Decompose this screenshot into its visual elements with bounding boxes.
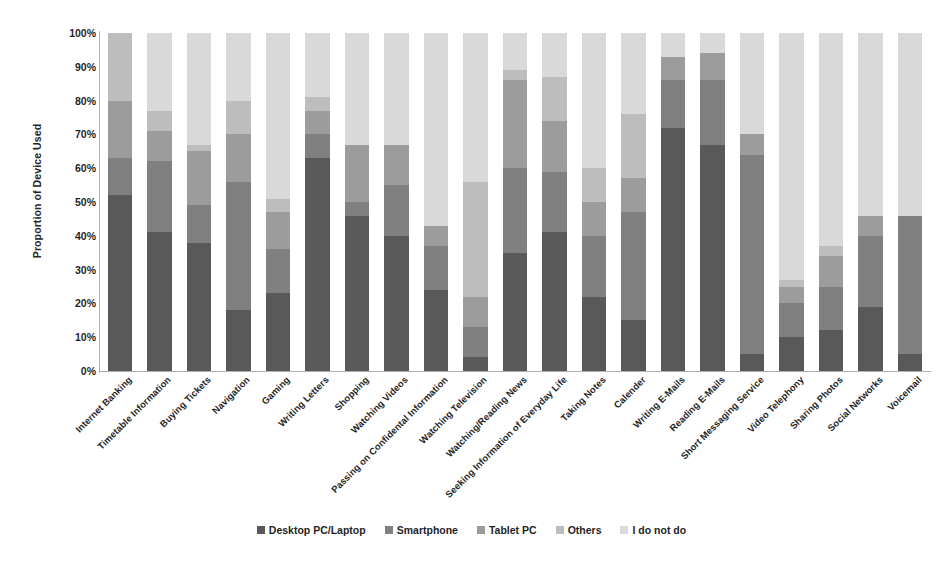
bar-stack	[740, 33, 765, 371]
bar-column[interactable]	[147, 33, 172, 371]
bar-column[interactable]	[661, 33, 686, 371]
bar-segment	[621, 212, 646, 320]
bar-segment	[779, 33, 804, 280]
bar-segment	[147, 161, 172, 232]
legend-label: I do not do	[632, 524, 686, 536]
y-axis-tick: 30%	[58, 264, 96, 276]
bar-segment	[819, 33, 844, 246]
bar-segment	[779, 303, 804, 337]
bar-segment	[463, 357, 488, 371]
bar-segment	[779, 280, 804, 287]
bar-segment	[621, 114, 646, 178]
bar-segment	[661, 33, 686, 57]
bar-stack	[858, 33, 883, 371]
bar-segment	[621, 320, 646, 371]
bar-segment	[858, 33, 883, 216]
bar-segment	[266, 293, 291, 371]
bar-stack	[582, 33, 607, 371]
bar-column[interactable]	[898, 33, 923, 371]
bar-segment	[661, 80, 686, 127]
bar-segment	[858, 307, 883, 371]
bar-segment	[384, 145, 409, 186]
bar-stack	[779, 33, 804, 371]
bar-column[interactable]	[621, 33, 646, 371]
bar-column[interactable]	[266, 33, 291, 371]
bar-stack	[226, 33, 251, 371]
bar-segment	[305, 134, 330, 158]
bar-segment	[345, 33, 370, 145]
bar-segment	[819, 287, 844, 331]
bar-column[interactable]	[108, 33, 133, 371]
bar-segment	[147, 33, 172, 111]
bar-segment	[542, 121, 567, 172]
bar-segment	[424, 33, 449, 226]
bar-column[interactable]	[187, 33, 212, 371]
bar-column[interactable]	[305, 33, 330, 371]
y-axis-tick: 0%	[58, 365, 96, 377]
legend-label: Tablet PC	[489, 524, 537, 536]
x-axis-category-label: Watching/Reading News	[444, 374, 529, 459]
bar-segment	[384, 236, 409, 371]
x-axis-category-label: Voicemail	[885, 374, 924, 413]
bar-column[interactable]	[700, 33, 725, 371]
bar-segment	[661, 128, 686, 371]
bar-segment	[819, 246, 844, 256]
legend-item[interactable]: I do not do	[620, 524, 686, 536]
bar-segment	[779, 287, 804, 304]
bar-segment	[345, 145, 370, 202]
bar-stack	[700, 33, 725, 371]
bar-segment	[187, 205, 212, 242]
bar-segment	[542, 172, 567, 233]
bar-segment	[819, 330, 844, 371]
y-axis-title: Proportion of Device Used	[31, 81, 43, 301]
bar-segment	[226, 310, 251, 371]
bar-segment	[108, 158, 133, 195]
bar-column[interactable]	[226, 33, 251, 371]
y-axis-tick-labels: 100%90%80%70%60%50%40%30%20%10%0%	[58, 33, 96, 371]
bar-segment	[305, 158, 330, 371]
bar-segment	[621, 178, 646, 212]
bar-segment	[266, 212, 291, 249]
bar-column[interactable]	[345, 33, 370, 371]
bar-segment	[187, 33, 212, 145]
legend-item[interactable]: Tablet PC	[477, 524, 537, 536]
x-axis-category-label: Gaming	[259, 374, 292, 407]
bar-segment	[463, 33, 488, 182]
bar-segment	[858, 236, 883, 307]
bar-segment	[542, 33, 567, 77]
bar-segment	[542, 77, 567, 121]
legend-swatch-icon	[477, 526, 485, 534]
bar-column[interactable]	[384, 33, 409, 371]
bar-segment	[108, 101, 133, 158]
bar-column[interactable]	[740, 33, 765, 371]
bar-segment	[858, 216, 883, 236]
bar-segment	[582, 202, 607, 236]
bar-segment	[819, 256, 844, 286]
bar-column[interactable]	[582, 33, 607, 371]
y-axis-tick: 60%	[58, 162, 96, 174]
bar-column[interactable]	[858, 33, 883, 371]
bar-segment	[305, 97, 330, 111]
bar-segment	[542, 232, 567, 371]
bar-column[interactable]	[819, 33, 844, 371]
bar-segment	[424, 226, 449, 246]
legend-item[interactable]: Desktop PC/Laptop	[257, 524, 366, 536]
bar-column[interactable]	[503, 33, 528, 371]
bar-segment	[384, 185, 409, 236]
bar-segment	[740, 33, 765, 134]
y-axis-tick: 40%	[58, 230, 96, 242]
bar-segment	[147, 232, 172, 371]
bar-column[interactable]	[463, 33, 488, 371]
legend-item[interactable]: Smartphone	[385, 524, 458, 536]
y-axis-tick: 80%	[58, 95, 96, 107]
legend-item[interactable]: Others	[556, 524, 602, 536]
bar-stack	[542, 33, 567, 371]
bar-segment	[503, 70, 528, 80]
bar-segment	[740, 155, 765, 354]
bar-column[interactable]	[424, 33, 449, 371]
bar-segment	[226, 33, 251, 101]
bar-column[interactable]	[542, 33, 567, 371]
bar-segment	[661, 57, 686, 81]
bar-stack	[424, 33, 449, 371]
bar-column[interactable]	[779, 33, 804, 371]
